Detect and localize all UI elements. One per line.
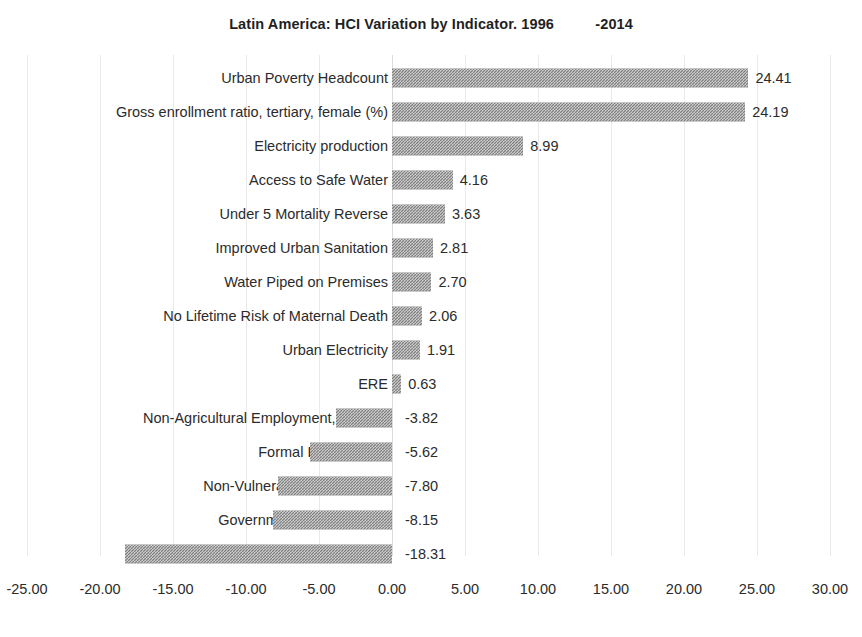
category-label: Gross enrollment ratio, tertiary, female… xyxy=(116,104,392,120)
value-label: -5.62 xyxy=(405,444,438,460)
value-label: 3.63 xyxy=(452,206,480,222)
value-label: 4.16 xyxy=(460,172,488,188)
bar-row: Water Piped on Premises2.70 xyxy=(0,265,862,299)
bar-row: Non-Agricultural Employment, Female-3.82 xyxy=(0,401,862,435)
bar-row: Gross enrollment ratio, tertiary, female… xyxy=(0,95,862,129)
bar-row: Electricity production8.99 xyxy=(0,129,862,163)
plot-area: Urban Poverty Headcount24.41Gross enroll… xyxy=(0,55,862,573)
x-tick-label: 15.00 xyxy=(593,581,629,597)
value-label: 2.06 xyxy=(429,308,457,324)
bar xyxy=(392,341,420,360)
bar-row: Formal Employment-5.62 xyxy=(0,435,862,469)
x-tick-label: -10.00 xyxy=(225,581,266,597)
chart-title: Latin America: HCI Variation by Indicato… xyxy=(0,16,862,32)
category-label: Urban Poverty Headcount xyxy=(221,70,392,86)
value-label: -3.82 xyxy=(405,410,438,426)
value-label: -8.15 xyxy=(405,512,438,528)
category-label: No Lifetime Risk of Maternal Death xyxy=(163,308,392,324)
value-label: 24.41 xyxy=(755,70,791,86)
bar-row: Quality of Government-18.31 xyxy=(0,537,862,571)
bar xyxy=(278,477,392,496)
bar-row: Under 5 Mortality Reverse3.63 xyxy=(0,197,862,231)
bar-row: Government Effectiveness-8.15 xyxy=(0,503,862,537)
bar xyxy=(392,103,745,122)
bar xyxy=(392,69,748,88)
x-tick-label: -5.00 xyxy=(302,581,335,597)
bar xyxy=(125,545,392,564)
value-label: 24.19 xyxy=(752,104,788,120)
x-tick-label: -15.00 xyxy=(152,581,193,597)
value-label: 0.63 xyxy=(408,376,436,392)
category-label: Water Piped on Premises xyxy=(224,274,392,290)
category-label: ERE xyxy=(358,376,392,392)
bar xyxy=(392,205,445,224)
category-label: Improved Urban Sanitation xyxy=(216,240,393,256)
x-tick-label: 25.00 xyxy=(739,581,775,597)
bar-row: Improved Urban Sanitation2.81 xyxy=(0,231,862,265)
bar xyxy=(392,307,422,326)
category-label: Urban Electricity xyxy=(282,342,392,358)
x-tick-label: 30.00 xyxy=(812,581,848,597)
bar xyxy=(392,171,453,190)
bar xyxy=(392,137,523,156)
x-tick-label: 10.00 xyxy=(520,581,556,597)
value-label: 1.91 xyxy=(427,342,455,358)
bar-row: Non-Vulnerable Employment-7.80 xyxy=(0,469,862,503)
bar-row: Access to Safe Water4.16 xyxy=(0,163,862,197)
value-label: 8.99 xyxy=(530,138,558,154)
x-axis: -25.00-20.00-15.00-10.00-5.000.005.0010.… xyxy=(0,573,862,613)
value-label: -7.80 xyxy=(405,478,438,494)
bar-row: Urban Poverty Headcount24.41 xyxy=(0,61,862,95)
bar xyxy=(392,273,431,292)
x-tick-label: 5.00 xyxy=(451,581,479,597)
value-label: 2.81 xyxy=(440,240,468,256)
category-label: Under 5 Mortality Reverse xyxy=(220,206,392,222)
bar xyxy=(392,239,433,258)
bar-row: Urban Electricity1.91 xyxy=(0,333,862,367)
value-label: -18.31 xyxy=(405,546,446,562)
bar-row: ERE0.63 xyxy=(0,367,862,401)
category-label: Electricity production xyxy=(254,138,392,154)
x-tick-label: 20.00 xyxy=(666,581,702,597)
x-tick-label: 0.00 xyxy=(378,581,406,597)
bar-chart: Latin America: HCI Variation by Indicato… xyxy=(0,0,862,637)
bar-row: No Lifetime Risk of Maternal Death2.06 xyxy=(0,299,862,333)
category-label: Access to Safe Water xyxy=(249,172,392,188)
bar xyxy=(336,409,392,428)
bar xyxy=(273,511,392,530)
x-tick-label: -20.00 xyxy=(79,581,120,597)
x-tick-label: -25.00 xyxy=(6,581,47,597)
value-label: 2.70 xyxy=(438,274,466,290)
bar xyxy=(310,443,392,462)
bar xyxy=(392,375,401,394)
